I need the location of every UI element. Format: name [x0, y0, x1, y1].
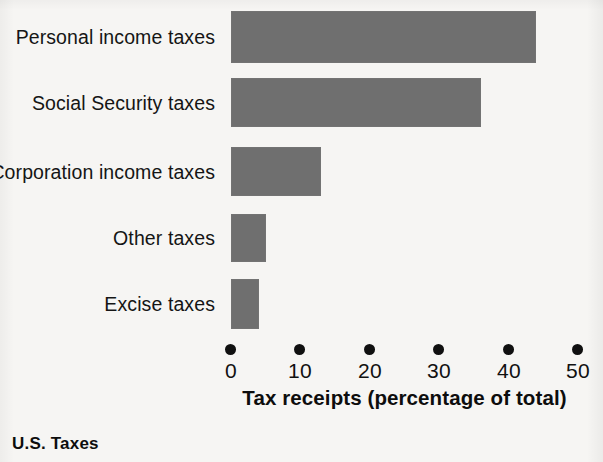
- plot-area: Personal income taxes Social Security ta…: [0, 0, 603, 340]
- x-axis-tick: 20: [358, 340, 382, 383]
- x-axis-tick: 0: [225, 340, 237, 383]
- bar-row: Excise taxes: [0, 279, 603, 329]
- tick-dot-icon: [434, 344, 445, 355]
- bar-corporation-income-taxes: [231, 147, 321, 196]
- bar-row: Social Security taxes: [0, 78, 603, 127]
- figure-caption: U.S. Taxes: [12, 434, 99, 454]
- x-axis-tick-label: 50: [566, 359, 590, 383]
- tick-dot-icon: [504, 344, 515, 355]
- x-axis-tick-label: 40: [497, 359, 521, 383]
- x-axis-tick-label: 10: [288, 359, 312, 383]
- x-axis-tick-label: 0: [225, 359, 237, 383]
- tick-dot-icon: [573, 344, 584, 355]
- bar-excise-taxes: [231, 279, 259, 329]
- bar-row: Other taxes: [0, 214, 603, 262]
- x-axis-tick: 50: [566, 340, 590, 383]
- bar-category-label: Corporation income taxes: [0, 160, 215, 183]
- x-axis-tick-label: 30: [427, 359, 451, 383]
- x-axis-tick: 30: [427, 340, 451, 383]
- tick-dot-icon: [295, 344, 306, 355]
- bar-category-label: Excise taxes: [104, 293, 215, 316]
- chart-figure: Personal income taxes Social Security ta…: [0, 0, 603, 462]
- bar-row: Corporation income taxes: [0, 147, 603, 196]
- x-axis-tick: 40: [497, 340, 521, 383]
- tick-dot-icon: [225, 344, 236, 355]
- bar-category-label: Other taxes: [113, 227, 215, 250]
- bar-category-label: Social Security taxes: [32, 91, 215, 114]
- tick-dot-icon: [365, 344, 376, 355]
- x-axis-tick: 10: [288, 340, 312, 383]
- bar-personal-income-taxes: [231, 11, 536, 63]
- bar-social-security-taxes: [231, 78, 481, 127]
- x-axis-title: Tax receipts (percentage of total): [231, 386, 578, 410]
- bar-category-label: Personal income taxes: [16, 26, 215, 49]
- x-axis-tick-label: 20: [358, 359, 382, 383]
- bar-row: Personal income taxes: [0, 11, 603, 63]
- bar-other-taxes: [231, 214, 266, 262]
